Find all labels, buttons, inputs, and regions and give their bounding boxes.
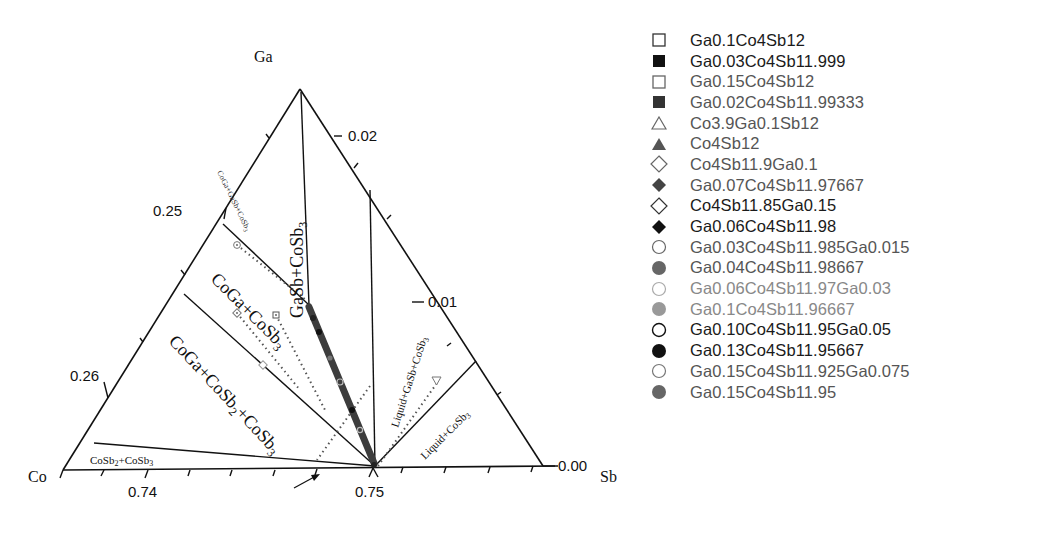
legend-item: Ga0.06Co4Sb11.98 <box>650 216 1040 237</box>
circle-open-icon <box>650 362 668 380</box>
circle-open-icon <box>650 280 668 298</box>
legend-label: Co4Sb12 <box>690 134 760 153</box>
legend-item: Co4Sb11.85Ga0.15 <box>650 196 1040 217</box>
legend-label: Ga0.15Co4Sb12 <box>690 72 814 91</box>
tick-label-right-001: 0.01 <box>428 293 457 310</box>
region-label-liquid-cosb3: Liquid+CoSb3 <box>418 408 473 463</box>
legend-item: Co4Sb12 <box>650 133 1040 154</box>
svg-text:CoSb2+CoSb3: CoSb2+CoSb3 <box>90 454 153 468</box>
diamond-filled-icon <box>650 218 668 236</box>
tick-label-bottom-074: 0.74 <box>128 483 157 500</box>
legend-label: Ga0.15Co4Sb11.925Ga0.075 <box>690 362 910 381</box>
circle-filled-icon <box>650 300 668 318</box>
svg-text:Liquid+CoSb3: Liquid+CoSb3 <box>418 408 473 463</box>
legend-label: Ga0.15Co4Sb11.95 <box>690 383 836 402</box>
circle-filled-icon <box>650 259 668 277</box>
square-filled-icon <box>650 52 668 70</box>
square-open-icon <box>650 31 668 49</box>
region-label-coga-cosb2-cosb3: CoGa+CoSb2+CoSb3 <box>163 331 285 460</box>
vertex-label-ga: Ga <box>254 48 273 65</box>
legend-label: Co4Sb11.9Ga0.1 <box>690 155 818 174</box>
tick-label-bottom-075: 0.75 <box>355 483 384 500</box>
legend-item: Ga0.1Co4Sb11.96667 <box>650 299 1040 320</box>
circle-open-icon <box>650 321 668 339</box>
legend-label: Ga0.1Co4Sb11.96667 <box>690 300 855 319</box>
svg-text:GaSb+CoSb3: GaSb+CoSb3 <box>287 222 310 318</box>
legend-label: Ga0.03Co4Sb11.985Ga0.015 <box>690 238 910 257</box>
vertex-label-sb: Sb <box>600 468 617 485</box>
legend-label: Ga0.07Co4Sb11.97667 <box>690 176 864 195</box>
legend-label: Ga0.06Co4Sb11.98 <box>690 217 836 236</box>
svg-text:CoGa+GaSb+CoSb3: CoGa+GaSb+CoSb3 <box>214 169 252 233</box>
tick-label-right-000: 0.00 <box>558 457 587 474</box>
legend: Ga0.1Co4Sb12 Ga0.03Co4Sb11.999 Ga0.15Co4… <box>650 30 1040 402</box>
square-open-icon <box>650 73 668 91</box>
arrow-indicator <box>294 474 320 488</box>
legend-item: Ga0.15Co4Sb11.95 <box>650 382 1040 403</box>
legend-item: Ga0.04Co4Sb11.98667 <box>650 258 1040 279</box>
legend-item: Ga0.07Co4Sb11.97667 <box>650 175 1040 196</box>
sample-band <box>309 307 377 468</box>
legend-item: Ga0.10Co4Sb11.95Ga0.05 <box>650 320 1040 341</box>
legend-label: Ga0.10Co4Sb11.95Ga0.05 <box>690 320 891 339</box>
region-label-gasb-cosb3: GaSb+CoSb3 <box>287 222 310 318</box>
legend-label: Ga0.03Co4Sb11.999 <box>690 52 846 71</box>
circle-filled-icon <box>650 342 668 360</box>
tick-label-left-026: 0.26 <box>70 367 99 384</box>
legend-item: Ga0.02Co4Sb11.99333 <box>650 92 1040 113</box>
circle-filled-icon <box>650 383 668 401</box>
legend-label: Co3.9Ga0.1Sb12 <box>690 114 819 133</box>
square-filled-icon <box>650 93 668 111</box>
legend-item: Co3.9Ga0.1Sb12 <box>650 113 1040 134</box>
triangle-frame <box>63 89 558 470</box>
legend-item: Ga0.1Co4Sb12 <box>650 30 1040 51</box>
legend-item: Ga0.03Co4Sb11.985Ga0.015 <box>650 237 1040 258</box>
vertex-label-co: Co <box>28 468 47 485</box>
diamond-open-icon <box>650 155 668 173</box>
legend-item: Co4Sb11.9Ga0.1 <box>650 154 1040 175</box>
legend-label: Ga0.06Co4Sb11.97Ga0.03 <box>690 279 891 298</box>
triangle-filled-icon <box>650 135 668 153</box>
legend-item: Ga0.15Co4Sb11.925Ga0.075 <box>650 361 1040 382</box>
legend-label: Ga0.1Co4Sb12 <box>690 31 805 50</box>
triangle-open-icon <box>650 114 668 132</box>
legend-item: Ga0.03Co4Sb11.999 <box>650 51 1040 72</box>
legend-label: Ga0.13Co4Sb11.95667 <box>690 341 864 360</box>
legend-label: Co4Sb11.85Ga0.15 <box>690 196 836 215</box>
circle-open-icon <box>650 238 668 256</box>
diamond-filled-icon <box>650 176 668 194</box>
legend-label: Ga0.02Co4Sb11.99333 <box>690 93 864 112</box>
legend-item: Ga0.13Co4Sb11.95667 <box>650 340 1040 361</box>
legend-item: Ga0.15Co4Sb12 <box>650 71 1040 92</box>
region-label-coga-gasb-cosb3: CoGa+GaSb+CoSb3 <box>214 169 252 233</box>
diamond-open-icon <box>650 197 668 215</box>
region-label-cosb2-cosb3: CoSb2+CoSb3 <box>90 454 153 468</box>
legend-item: Ga0.06Co4Sb11.97Ga0.03 <box>650 278 1040 299</box>
tick-label-right-002: 0.02 <box>348 127 377 144</box>
ternary-phase-diagram: Ga Co Sb 0.74 0.75 0.25 0.26 0.02 0.01 0… <box>0 0 620 550</box>
phase-boundaries <box>94 92 476 466</box>
legend-label: Ga0.04Co4Sb11.98667 <box>690 258 864 277</box>
tick-label-left-025: 0.25 <box>153 202 182 219</box>
svg-text:CoGa+CoSb2+CoSb3: CoGa+CoSb2+CoSb3 <box>163 331 285 460</box>
